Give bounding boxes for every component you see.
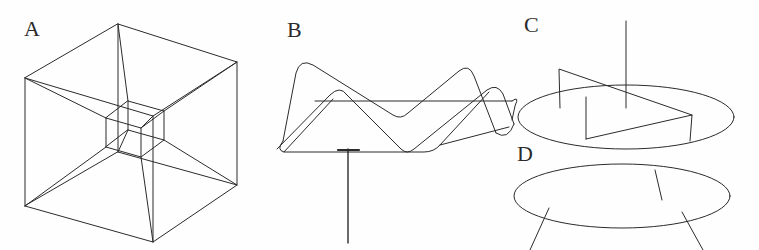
inner-cube — [106, 101, 164, 157]
connector-edge-bottom-front — [141, 157, 153, 242]
panel-label-a: A — [24, 18, 40, 40]
lower-disc-ellipse — [514, 164, 730, 228]
connector-edge-top-right — [164, 62, 237, 111]
ribbon-lower-edge — [277, 87, 514, 152]
inner-cube-bottom-face — [106, 130, 164, 157]
ribbon-upper-edge — [283, 63, 496, 141]
outer-cube — [25, 24, 237, 242]
figure-canvas: A B C D — [0, 0, 759, 250]
ribbon-right-outer-edge — [440, 127, 509, 145]
connector-edge-bottom-left — [25, 147, 106, 206]
panel-d-disc — [514, 164, 730, 250]
ribbon-right-fold-loop — [512, 99, 517, 120]
ribbon-right-diagonal — [440, 92, 489, 145]
connector-edge-top-front — [141, 116, 153, 128]
panel-b-pleated-ribbon — [277, 63, 517, 243]
ribbon-left-diagonal — [284, 99, 333, 152]
ribbon-bottom-closing-edge — [348, 145, 440, 152]
lower-disc-inner-line — [655, 170, 662, 200]
wireframe-drawing — [0, 0, 759, 250]
panel-a-tesseract — [25, 24, 237, 242]
panel-label-c: C — [524, 14, 539, 36]
panel-label-b: B — [287, 19, 302, 41]
connector-edge-bottom-right — [164, 140, 237, 185]
connector-edge-top-back — [118, 24, 128, 101]
cube-connector-edges — [25, 24, 237, 242]
panel-label-d: D — [517, 143, 533, 165]
panel-c-disc — [518, 21, 734, 149]
